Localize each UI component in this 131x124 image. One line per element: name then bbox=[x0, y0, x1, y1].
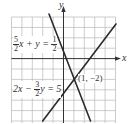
x-axis-arrow-icon bbox=[115, 56, 121, 60]
intersection-label: (1, −2) bbox=[78, 74, 103, 83]
equation-1-label: 52x + y = 12 bbox=[13, 36, 57, 53]
axes bbox=[12, 6, 122, 123]
eq1-rhs: 12 bbox=[51, 36, 57, 53]
equation-2-label: 2x − 32y = 5 bbox=[13, 81, 61, 98]
graph bbox=[0, 0, 131, 124]
x-axis-label: x bbox=[122, 53, 126, 63]
y-axis-label: y bbox=[59, 0, 63, 10]
